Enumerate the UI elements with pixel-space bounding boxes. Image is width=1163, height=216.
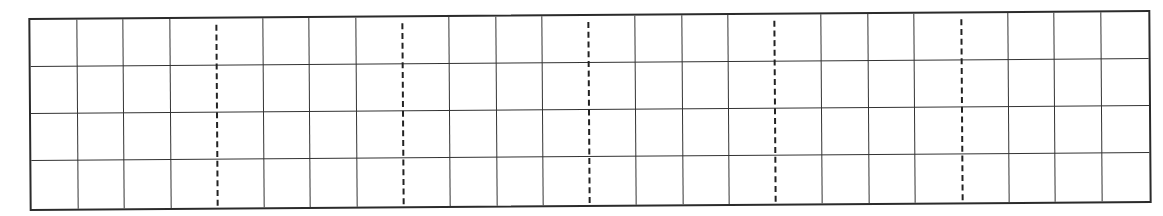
dashed-column-divider: [215, 25, 218, 206]
dashed-column-divider: [960, 19, 963, 200]
column-divider: [541, 16, 543, 205]
column-divider: [914, 14, 916, 203]
dashed-column-divider: [774, 21, 777, 202]
column-divider: [355, 18, 357, 207]
column-divider: [821, 14, 823, 203]
column-divider: [635, 16, 637, 205]
writing-grid: [28, 10, 1151, 211]
dashed-column-divider: [401, 23, 404, 204]
column-divider: [1100, 12, 1102, 201]
worksheet-canvas: [0, 0, 1163, 216]
column-divider: [169, 19, 171, 208]
column-divider: [728, 15, 730, 204]
column-divider: [1053, 13, 1055, 202]
column-divider: [448, 17, 450, 206]
column-divider: [123, 19, 125, 208]
column-divider: [681, 15, 683, 204]
column-divider: [1007, 13, 1009, 202]
column-divider: [309, 18, 311, 207]
column-divider: [262, 18, 264, 207]
column-divider: [76, 20, 78, 209]
column-divider: [867, 14, 869, 203]
column-divider: [495, 17, 497, 206]
dashed-column-divider: [588, 22, 591, 203]
